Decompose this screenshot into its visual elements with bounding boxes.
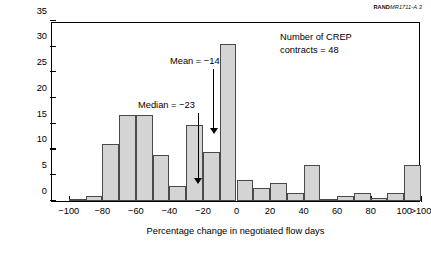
histogram-bar	[69, 199, 86, 201]
histogram-bar	[304, 165, 321, 201]
x-tick-label: 20	[265, 207, 275, 216]
x-tick-label: −40	[162, 207, 178, 216]
mean-annotation-arrow-line	[213, 69, 214, 128]
histogram-bar	[337, 196, 354, 201]
histogram-bar	[354, 193, 371, 201]
y-tick-label: 25	[37, 58, 47, 67]
x-tick-label: −100	[58, 207, 79, 216]
source-id: RANDMR1711-A.3	[373, 4, 422, 10]
x-tick-label: 80	[366, 207, 376, 216]
x-axis-label: Percentage change in negotiated flow day…	[51, 226, 420, 236]
histogram-bar	[253, 188, 270, 201]
median-annotation-arrow-line	[198, 113, 199, 178]
y-tick	[50, 200, 56, 201]
histogram-bar	[320, 199, 337, 201]
histogram-bar	[287, 193, 304, 201]
x-tick	[421, 196, 422, 202]
source-id-number: MR1711-A.3	[390, 4, 422, 10]
median-annotation-arrow-head	[194, 178, 202, 184]
y-tick-label: 35	[37, 7, 47, 16]
histogram-bar	[387, 193, 404, 201]
y-tick	[50, 46, 56, 47]
plot-area: 05101520253035 −100−80−60−40−20020406080…	[51, 22, 420, 202]
crep-note-line2: contracts = 48	[280, 45, 339, 55]
histogram-bar	[102, 144, 119, 201]
y-tick-label: 0	[42, 187, 47, 196]
x-tick-label: 60	[332, 207, 342, 216]
histogram-bar	[371, 198, 388, 201]
y-tick-label: 30	[37, 33, 47, 42]
x-tick-label: 40	[298, 207, 308, 216]
y-tick-label: 15	[37, 110, 47, 119]
histogram-bar	[153, 155, 170, 201]
y-tick	[50, 123, 56, 124]
histogram-bar	[220, 44, 237, 201]
crep-note: Number of CREP contracts = 48	[280, 31, 352, 56]
histogram-bar	[136, 115, 153, 201]
x-tick-label: 0	[234, 207, 239, 216]
histogram-bar	[270, 183, 287, 201]
y-tick-label: 5	[42, 161, 47, 170]
x-tick-label: −80	[94, 207, 110, 216]
y-tick-label: 10	[37, 136, 47, 145]
x-tick-label: −20	[195, 207, 211, 216]
histogram-bar	[237, 180, 254, 201]
y-tick	[50, 97, 56, 98]
histogram-bar	[404, 165, 421, 201]
median-annotation-label: Median = −23	[138, 101, 195, 110]
x-tick-label: >100	[411, 207, 431, 216]
mean-annotation-arrow-head	[210, 128, 218, 134]
y-tick	[50, 71, 56, 72]
histogram-bar	[186, 125, 203, 201]
source-id-prefix: RAND	[373, 4, 390, 10]
histogram-bar	[203, 152, 220, 201]
crep-note-line1: Number of CREP	[280, 32, 352, 42]
mean-annotation-label: Mean = −14	[170, 57, 220, 66]
x-tick-label: −60	[128, 207, 144, 216]
histogram-bar	[86, 196, 103, 201]
y-tick	[50, 174, 56, 175]
y-tick-label: 20	[37, 84, 47, 93]
y-tick	[50, 148, 56, 149]
y-tick	[50, 20, 56, 21]
histogram-bar	[169, 186, 186, 201]
histogram-bar	[119, 115, 136, 201]
